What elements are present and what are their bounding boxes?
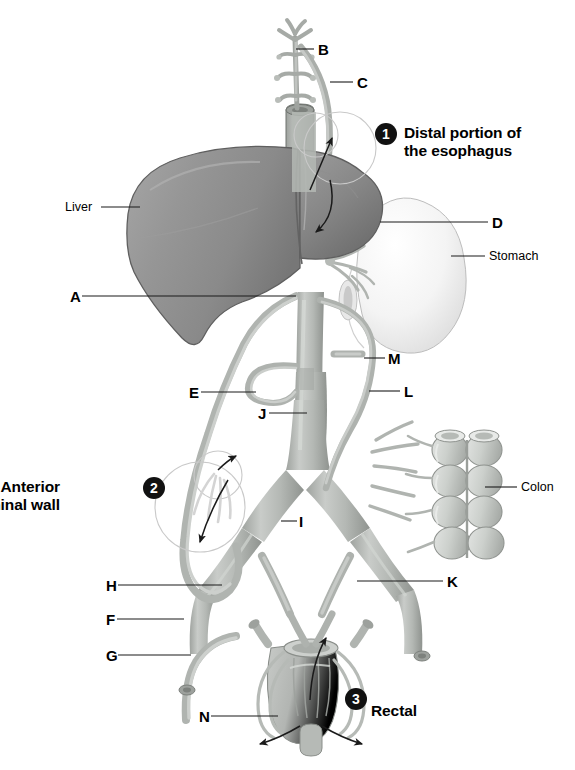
organ-label-stomach: Stomach bbox=[489, 249, 538, 263]
letter-label-d: D bbox=[492, 215, 503, 232]
letter-label-n: N bbox=[199, 709, 210, 726]
callout-marker-3: 3 bbox=[345, 688, 367, 710]
letter-label-g: G bbox=[106, 648, 118, 665]
callout-marker-1: 1 bbox=[375, 123, 397, 145]
callout-marker-2: 2 bbox=[143, 477, 165, 499]
callout-text-3: Rectal bbox=[371, 702, 417, 719]
letter-label-l: L bbox=[404, 384, 413, 401]
letter-label-i: I bbox=[299, 514, 303, 531]
letter-label-m: M bbox=[388, 351, 401, 368]
letter-label-e: E bbox=[189, 385, 199, 402]
letter-label-f: F bbox=[106, 612, 115, 629]
colon-shape bbox=[406, 430, 504, 559]
callout-text-2: Anterior abdominal wall bbox=[0, 478, 60, 515]
letter-label-j: J bbox=[258, 406, 267, 423]
letter-label-b: B bbox=[318, 42, 329, 59]
letter-label-c: C bbox=[357, 75, 368, 92]
callout-text-1: Distal portion of the esophagus bbox=[404, 124, 521, 161]
organ-label-colon: Colon bbox=[521, 480, 554, 494]
diagram-canvas: BCDAMELJIHKFGN LiverStomachColon 1Distal… bbox=[0, 0, 575, 770]
letter-label-a: A bbox=[70, 289, 81, 306]
anatomy-illustration bbox=[0, 0, 575, 770]
organ-label-liver: Liver bbox=[65, 200, 92, 214]
letter-label-h: H bbox=[106, 578, 117, 595]
letter-label-k: K bbox=[447, 574, 458, 591]
